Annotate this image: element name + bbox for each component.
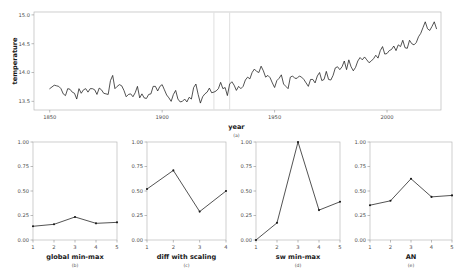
panel-c-data-point — [225, 190, 227, 192]
panel-e-data-point — [430, 196, 432, 198]
panel-b-ytick-label: 0.75 — [17, 163, 29, 169]
panel-d-xtick-label: 1 — [254, 244, 257, 250]
panel-d-xtick-label: 4 — [317, 244, 321, 250]
panel-c-ytick-label: 0.00 — [131, 237, 143, 243]
panel-b-data-point — [32, 225, 34, 227]
panel-d-data-point — [297, 141, 299, 143]
panel-e-ytick-label: 0.00 — [354, 237, 366, 243]
panel-b-xaxis-title: global min-max — [46, 253, 104, 261]
panel-e-data-point — [389, 200, 391, 202]
panel-b-xtick-label: 1 — [31, 244, 34, 250]
panel-b-xtick-label: 5 — [115, 244, 118, 250]
panel-d-xaxis-title: sw min-max — [276, 253, 321, 261]
panel-b-ytick-label: 1.00 — [17, 139, 29, 145]
panel-b-data-point — [116, 221, 118, 223]
panel-d-caption: (d) — [295, 263, 302, 268]
panel-e-ytick-label: 1.00 — [354, 139, 366, 145]
figure-canvas: 13.514.014.515.01850190019502000year(a)t… — [0, 0, 457, 275]
panel-b-xtick-label: 3 — [73, 244, 76, 250]
panel-c-data-point — [199, 211, 201, 213]
panel-a-xtick-label: 1900 — [156, 114, 169, 120]
panel-a-ytick-label: 15.0 — [18, 12, 30, 18]
panel-e-xaxis-title: AN — [406, 253, 417, 261]
panel-e-series-line — [370, 179, 452, 205]
panel-b-ytick-label: 0.25 — [17, 212, 29, 218]
panel-b-data-point — [53, 223, 55, 225]
panel-d-ytick-label: 0.25 — [240, 212, 252, 218]
panel-a-xaxis-title: year — [228, 123, 245, 131]
panel-d-xtick-label: 5 — [338, 244, 341, 250]
panel-d-series-line — [256, 142, 340, 240]
panel-b-series-line — [33, 217, 117, 226]
panel-e-frame — [370, 142, 452, 240]
panel-e-xtick-label: 5 — [450, 244, 453, 250]
panel-e-ytick-label: 0.25 — [354, 212, 366, 218]
panel-d-data-point — [318, 209, 320, 211]
panel-e-data-point — [410, 178, 412, 180]
panel-c-data-point — [172, 169, 174, 171]
panel-d-xtick-label: 3 — [296, 244, 299, 250]
panel-c-xtick-label: 1 — [145, 244, 148, 250]
panel-e-xtick-label: 4 — [430, 244, 434, 250]
panel-c-xtick-label: 3 — [198, 244, 201, 250]
panel-e-xtick-label: 3 — [409, 244, 412, 250]
panel-b-xtick-label: 2 — [52, 244, 55, 250]
panel-c-xaxis-title: diff with scaling — [157, 253, 217, 261]
panel-d-data-point — [255, 239, 257, 241]
panel-a-yaxis-title: temperature — [11, 37, 19, 84]
panel-c-ytick-label: 0.75 — [131, 163, 143, 169]
panel-c-xtick-label: 4 — [224, 244, 228, 250]
panel-a-ytick-label: 14.0 — [18, 69, 30, 75]
panel-d-xtick-label: 2 — [275, 244, 278, 250]
figure-container: 13.514.014.515.01850190019502000year(a)t… — [0, 0, 457, 275]
panel-b-data-point — [95, 222, 97, 224]
panel-e-xtick-label: 1 — [368, 244, 371, 250]
panel-d-data-point — [339, 201, 341, 203]
panel-e-data-point — [451, 194, 453, 196]
panel-e-xtick-label: 2 — [389, 244, 392, 250]
panel-d-ytick-label: 0.00 — [240, 237, 252, 243]
panel-d-frame — [256, 142, 340, 240]
panel-a-xtick-label: 1850 — [43, 114, 56, 120]
panel-c-data-point — [146, 188, 148, 190]
panel-c-ytick-label: 0.25 — [131, 212, 143, 218]
panel-b-caption: (b) — [72, 263, 79, 268]
panel-a-caption: (a) — [233, 133, 240, 138]
panel-d-data-point — [276, 222, 278, 224]
panel-c-xtick-label: 2 — [172, 244, 175, 250]
panel-e-ytick-label: 0.50 — [354, 188, 366, 194]
panel-a-ytick-label: 14.5 — [18, 41, 30, 47]
panel-d-ytick-label: 0.50 — [240, 188, 252, 194]
panel-c-ytick-label: 0.50 — [131, 188, 143, 194]
panel-c-ytick-label: 1.00 — [131, 139, 143, 145]
panel-a-xtick-label: 2000 — [380, 114, 393, 120]
panel-a-frame — [34, 12, 441, 110]
panel-b-xtick-label: 4 — [94, 244, 98, 250]
panel-e-data-point — [369, 204, 371, 206]
panel-e-caption: (e) — [408, 263, 415, 268]
panel-c-series-line — [147, 170, 226, 211]
panel-c-caption: (c) — [183, 263, 189, 268]
panel-b-ytick-label: 0.50 — [17, 188, 29, 194]
panel-e-ytick-label: 0.75 — [354, 163, 366, 169]
panel-d-ytick-label: 0.75 — [240, 163, 252, 169]
panel-a-ytick-label: 13.5 — [18, 98, 30, 104]
panel-a-xtick-label: 1950 — [268, 114, 281, 120]
panel-d-ytick-label: 1.00 — [240, 139, 252, 145]
panel-b-data-point — [74, 216, 76, 218]
panel-b-ytick-label: 0.00 — [17, 237, 29, 243]
panel-a-series-line — [50, 22, 437, 103]
